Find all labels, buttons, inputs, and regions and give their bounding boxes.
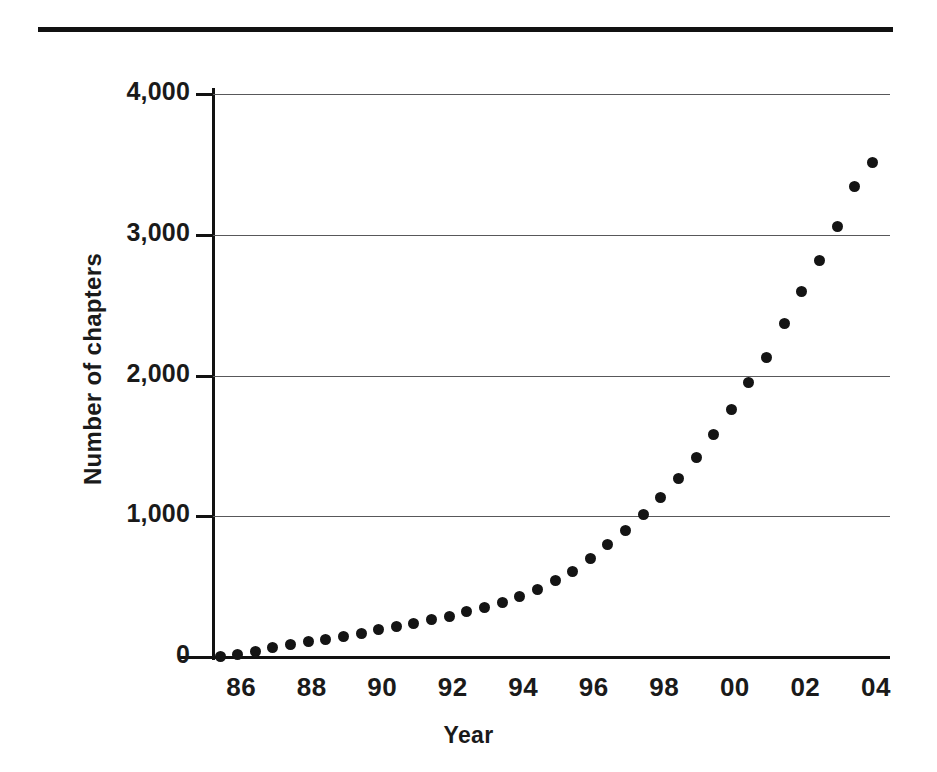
y-axis-title: Number of chapters	[79, 224, 107, 514]
data-point	[550, 575, 561, 586]
data-point	[655, 492, 666, 503]
data-point	[303, 636, 314, 647]
data-point	[356, 628, 367, 639]
data-point	[832, 221, 843, 232]
x-tick-label: 94	[488, 672, 558, 703]
x-tick-label: 92	[418, 672, 488, 703]
data-point	[285, 639, 296, 650]
y-tick-mark	[196, 656, 212, 659]
x-tick-label: 00	[700, 672, 770, 703]
x-tick-label: 88	[277, 672, 347, 703]
data-point	[250, 646, 261, 657]
x-tick-label: 96	[559, 672, 629, 703]
data-point	[867, 157, 878, 168]
data-point	[743, 377, 754, 388]
y-tick-mark	[196, 515, 212, 518]
data-point	[638, 509, 649, 520]
data-point	[620, 525, 631, 536]
data-point	[232, 649, 243, 660]
x-tick-label: 86	[206, 672, 276, 703]
x-tick-label: 04	[841, 672, 911, 703]
data-point	[408, 618, 419, 629]
data-point	[267, 642, 278, 653]
y-tick-mark	[196, 375, 212, 378]
data-point	[814, 255, 825, 266]
x-tick-label: 02	[770, 672, 840, 703]
y-tick-label: 4,000	[80, 77, 190, 106]
data-point	[479, 602, 490, 613]
data-point	[602, 539, 613, 550]
data-point	[726, 404, 737, 415]
data-point	[338, 631, 349, 642]
data-point	[761, 352, 772, 363]
data-point	[444, 611, 455, 622]
data-point	[796, 286, 807, 297]
data-point	[373, 624, 384, 635]
x-tick-label: 98	[629, 672, 699, 703]
y-tick-mark	[196, 234, 212, 237]
data-point	[779, 318, 790, 329]
chart-figure: 01,0002,0003,0004,000 868890929496980002…	[0, 0, 937, 772]
data-point	[391, 621, 402, 632]
data-point	[215, 651, 226, 662]
y-tick-mark	[196, 93, 212, 96]
data-point	[691, 452, 702, 463]
data-point	[849, 181, 860, 192]
y-tick-label: 0	[80, 640, 190, 669]
data-point	[514, 591, 525, 602]
data-point	[320, 634, 331, 645]
data-point	[426, 614, 437, 625]
data-point	[585, 553, 596, 564]
data-point	[567, 566, 578, 577]
x-axis-title: Year	[0, 722, 937, 749]
data-point	[497, 597, 508, 608]
data-point	[673, 473, 684, 484]
data-point	[708, 429, 719, 440]
x-tick-label: 90	[347, 672, 417, 703]
plot-area	[213, 94, 890, 657]
data-point	[461, 606, 472, 617]
data-point	[532, 584, 543, 595]
